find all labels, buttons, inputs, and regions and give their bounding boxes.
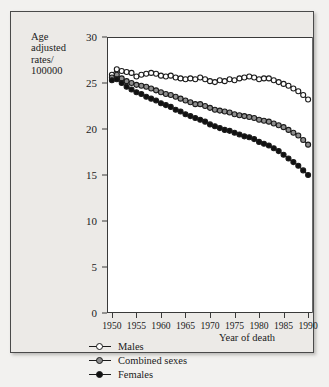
x-tick-label: 1990 bbox=[291, 320, 325, 331]
y-tick-label: 20 bbox=[71, 123, 97, 135]
data-point bbox=[266, 143, 271, 148]
data-point bbox=[154, 98, 159, 103]
data-point bbox=[198, 117, 203, 122]
data-point bbox=[252, 115, 257, 120]
data-point bbox=[301, 92, 306, 97]
x-tick-mark bbox=[284, 313, 285, 318]
data-point bbox=[139, 92, 144, 97]
data-point bbox=[158, 101, 163, 106]
data-point bbox=[266, 119, 271, 124]
figure-container: Age adjusted rates/ 100000 051015202530 … bbox=[0, 0, 329, 387]
data-point bbox=[296, 133, 301, 138]
x-tick-mark bbox=[112, 313, 113, 318]
legend-item-males: Males bbox=[89, 339, 187, 353]
data-point bbox=[242, 134, 247, 139]
data-point bbox=[291, 86, 296, 91]
data-point bbox=[291, 130, 296, 135]
data-point bbox=[154, 71, 159, 76]
data-point bbox=[227, 128, 232, 133]
x-tick-mark bbox=[185, 313, 186, 318]
data-point bbox=[188, 100, 193, 105]
data-point bbox=[149, 70, 154, 75]
data-point bbox=[203, 119, 208, 124]
x-tick-mark bbox=[210, 313, 211, 318]
data-point bbox=[193, 102, 198, 107]
data-point bbox=[247, 74, 252, 79]
data-point bbox=[158, 90, 163, 95]
data-point bbox=[114, 77, 119, 82]
data-point bbox=[173, 107, 178, 112]
y-axis-title-line-2: adjusted bbox=[31, 42, 103, 53]
data-point bbox=[134, 90, 139, 95]
data-point bbox=[261, 118, 266, 123]
legend-item-combined-sexes: Combined sexes bbox=[89, 353, 187, 367]
data-point bbox=[158, 73, 163, 78]
data-point bbox=[139, 83, 144, 88]
data-point bbox=[193, 115, 198, 120]
data-series-layer bbox=[107, 37, 313, 313]
y-axis-title-line-3: rates/ bbox=[31, 54, 103, 65]
data-point bbox=[208, 79, 213, 84]
data-point bbox=[232, 112, 237, 117]
data-point bbox=[198, 75, 203, 80]
data-point bbox=[168, 92, 173, 97]
data-point bbox=[163, 92, 168, 97]
data-point bbox=[124, 84, 129, 89]
y-tick-label: 30 bbox=[71, 31, 97, 43]
data-point bbox=[109, 78, 114, 83]
data-point bbox=[271, 78, 276, 83]
legend: Males Combined sexes Females bbox=[89, 339, 187, 381]
data-point bbox=[144, 84, 149, 89]
data-point bbox=[163, 74, 168, 79]
data-point bbox=[183, 98, 188, 103]
y-tick-label: 25 bbox=[71, 77, 97, 89]
data-point bbox=[144, 71, 149, 76]
data-point bbox=[139, 72, 144, 77]
y-axis-title-line-4: 100000 bbox=[31, 65, 103, 76]
data-point bbox=[212, 107, 217, 112]
data-point bbox=[208, 105, 213, 110]
y-tick-label: 15 bbox=[71, 169, 97, 181]
data-point bbox=[193, 77, 198, 82]
data-point bbox=[261, 141, 266, 146]
data-point bbox=[237, 132, 242, 137]
data-point bbox=[134, 74, 139, 79]
data-point bbox=[217, 108, 222, 113]
data-point bbox=[306, 142, 311, 147]
data-point bbox=[247, 115, 252, 120]
data-point bbox=[154, 88, 159, 93]
data-point bbox=[281, 125, 286, 130]
data-point bbox=[237, 76, 242, 81]
data-point bbox=[296, 163, 301, 168]
filled-circle-icon bbox=[89, 369, 111, 379]
data-point bbox=[306, 97, 311, 102]
x-tick-mark bbox=[259, 313, 260, 318]
data-point bbox=[306, 173, 311, 178]
y-tick-label: 10 bbox=[71, 215, 97, 227]
data-point bbox=[212, 80, 217, 85]
data-point bbox=[208, 122, 213, 127]
data-point bbox=[149, 96, 154, 101]
data-point bbox=[149, 86, 154, 91]
legend-item-females: Females bbox=[89, 367, 187, 381]
data-point bbox=[266, 76, 271, 81]
data-point bbox=[257, 117, 262, 122]
data-point bbox=[271, 146, 276, 151]
x-axis-title: Year of death bbox=[219, 332, 275, 343]
data-point bbox=[286, 156, 291, 161]
data-point bbox=[203, 77, 208, 82]
data-point bbox=[242, 75, 247, 80]
data-point bbox=[178, 109, 183, 114]
data-point bbox=[203, 104, 208, 109]
data-point bbox=[163, 103, 168, 108]
data-point bbox=[252, 137, 257, 142]
x-tick-mark bbox=[136, 313, 137, 318]
data-point bbox=[271, 121, 276, 126]
data-point bbox=[227, 110, 232, 115]
data-point bbox=[144, 94, 149, 99]
data-point bbox=[286, 127, 291, 132]
data-point bbox=[217, 78, 222, 83]
data-point bbox=[301, 138, 306, 143]
data-point bbox=[168, 104, 173, 109]
data-point bbox=[296, 89, 301, 94]
